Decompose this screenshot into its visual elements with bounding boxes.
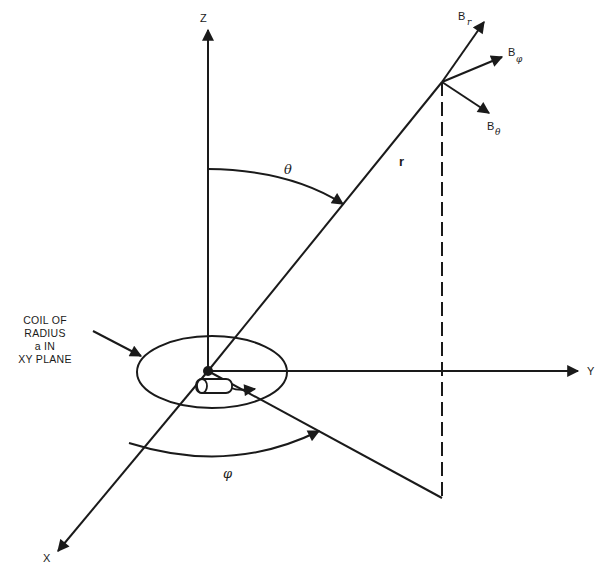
b-theta-label-base: B [487,120,494,132]
coil-annotation-line: RADIUS [10,327,80,340]
y-axis-label: Y [587,365,595,377]
coil-field-diagram: Z Y X r θ φ B r B φ B θ [0,0,602,570]
radius-line [208,82,442,371]
x-axis [58,371,208,551]
current-element-icon [196,379,232,393]
theta-label: θ [284,162,292,177]
origin-point [203,366,213,376]
b-phi-label-sub: φ [516,54,523,64]
phi-label: φ [223,466,233,481]
b-theta-label-sub: θ [495,127,501,137]
b-r-label-base: B [458,10,465,22]
phi-arc [129,431,319,456]
b-r-label: B r [458,10,472,27]
coil-annotation-line: XY PLANE [10,353,80,366]
coil-annotation: COIL OF RADIUS a IN XY PLANE [10,314,80,366]
b-theta-vector [442,82,489,113]
b-phi-label: B φ [508,46,523,64]
coil-annotation-line: a IN [10,340,80,353]
b-r-label-sub: r [467,17,472,27]
theta-arc [208,169,343,204]
current-direction-arrow [232,388,255,390]
radius-label: r [399,154,404,169]
coil-annotation-line: COIL OF [10,314,80,327]
coil-pointer-arrow [93,331,141,356]
b-theta-label: B θ [487,120,501,137]
x-axis-label: X [43,552,51,564]
z-axis-label: Z [200,12,207,24]
b-phi-label-base: B [508,46,515,58]
